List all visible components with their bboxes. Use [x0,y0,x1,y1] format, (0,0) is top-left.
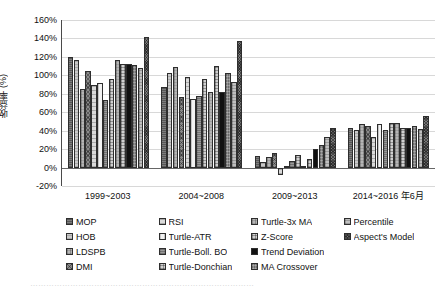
bar [412,126,417,168]
y-tick-label: 40% [0,126,57,135]
bar [120,64,125,167]
bar [202,79,207,168]
bar [231,82,236,168]
bar [68,57,73,168]
bar [278,168,283,175]
bar [144,37,149,168]
bar [330,128,335,168]
legend-label: Trend Deviation [261,247,324,257]
x-group-label: 1999~2003 [61,191,155,203]
bar [313,149,318,167]
legend-swatch-icon [66,218,73,225]
bar [365,126,370,168]
y-tick-label: 20% [0,145,57,154]
legend-label: DMI [76,262,93,272]
legend-swatch-icon [159,218,166,225]
legend-swatch-icon [344,233,351,240]
legend-label: Percentile [354,217,394,227]
y-tick-label: -20% [0,182,57,191]
legend-item[interactable]: Z-Score [251,229,342,244]
bar [400,128,405,168]
legend-item[interactable]: Percentile [344,214,435,229]
bar-group [249,20,342,186]
legend-item[interactable]: HOB [66,229,157,244]
legend-swatch-icon [251,233,258,240]
legend-swatch-icon [159,248,166,255]
legend-item[interactable]: Turtle-Boll. BO [159,244,250,259]
bar [324,137,329,167]
legend-item[interactable]: MA Crossover [251,259,342,274]
legend-item[interactable]: Turtle-ATR [159,229,250,244]
bar [307,159,312,167]
bar-groups [62,20,435,186]
y-tick-label: 0% [0,163,57,172]
bar-chart: 收益率 (%) 160%140%120%100%80%60%40%20%0%-2… [0,0,442,289]
plot-area [61,20,435,186]
legend-label: Turtle-Boll. BO [169,247,228,257]
bar [173,67,178,168]
bar [103,100,108,167]
legend-item[interactable]: Trend Deviation [251,244,342,259]
x-group-label: 2009~2013 [248,191,342,203]
legend-swatch-icon [159,263,166,270]
legend-swatch-icon [251,248,258,255]
bar [284,166,289,168]
y-tick-label: 120% [0,52,57,61]
page-caption-strip: ………………………………………………………………………… [30,279,428,287]
legend-label: HOB [76,232,96,242]
bar [406,128,411,168]
legend-item[interactable]: RSI [159,214,250,229]
bar [289,161,294,167]
legend-label: MOP [76,217,97,227]
legend-label: RSI [169,217,184,227]
bar [97,83,102,168]
bar [109,79,114,168]
bar [348,128,353,168]
bar-group [342,20,435,186]
y-tick-label: 60% [0,108,57,117]
bar [161,87,166,167]
legend-label: Turtle-Donchian [169,262,233,272]
bar [126,64,131,167]
bar [185,77,190,167]
bar [115,60,120,168]
legend-item[interactable]: LDSPB [66,244,157,259]
legend-label: Turtle-3x MA [261,217,312,227]
bar [91,85,96,168]
legend-item[interactable]: Turtle-Donchian [159,259,250,274]
y-tick-label: 100% [0,71,57,80]
legend-label: LDSPB [76,247,106,257]
bar-group [155,20,248,186]
legend-label: Z-Score [261,232,293,242]
y-tick-label: 80% [0,89,57,98]
bar [237,41,242,167]
legend-item[interactable]: MOP [66,214,157,229]
legend-swatch-icon [159,233,166,240]
bar-group [62,20,155,186]
legend-spacer [344,244,435,259]
legend-swatch-icon [344,218,351,225]
y-tick-label: 140% [0,34,57,43]
bar [138,68,143,168]
bar [359,124,364,167]
legend-swatch-icon [66,263,73,270]
legend-item[interactable]: DMI [66,259,157,274]
bar [389,123,394,167]
x-group-label: 2014~2016 年6月 [342,191,436,203]
bar [319,145,324,168]
bar [295,155,300,168]
legend-item[interactable]: Aspect's Model [344,229,435,244]
legend-spacer [344,259,435,274]
legend-swatch-icon [251,218,258,225]
legend-item[interactable]: Turtle-3x MA [251,214,342,229]
bar [383,130,388,168]
y-tick-label: 160% [0,16,57,25]
bar [85,71,90,168]
bar [418,129,423,168]
legend-label: Aspect's Model [354,232,415,242]
bar [190,99,195,167]
bar [80,89,85,167]
bar [301,166,306,168]
legend-swatch-icon [66,233,73,240]
bar [225,73,230,167]
